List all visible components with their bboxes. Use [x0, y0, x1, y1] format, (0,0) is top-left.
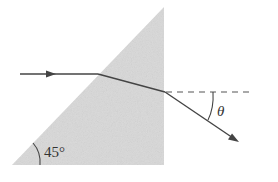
incident-arrow-icon	[46, 71, 56, 78]
emergent-ray	[165, 92, 236, 140]
prism-diagram: θ 45°	[0, 0, 278, 182]
apex-angle-label: 45°	[44, 144, 65, 160]
theta-arc	[208, 92, 213, 120]
emergent-arrow-icon	[228, 134, 239, 143]
theta-label: θ	[217, 103, 225, 119]
diagram-canvas: θ 45°	[0, 0, 278, 182]
